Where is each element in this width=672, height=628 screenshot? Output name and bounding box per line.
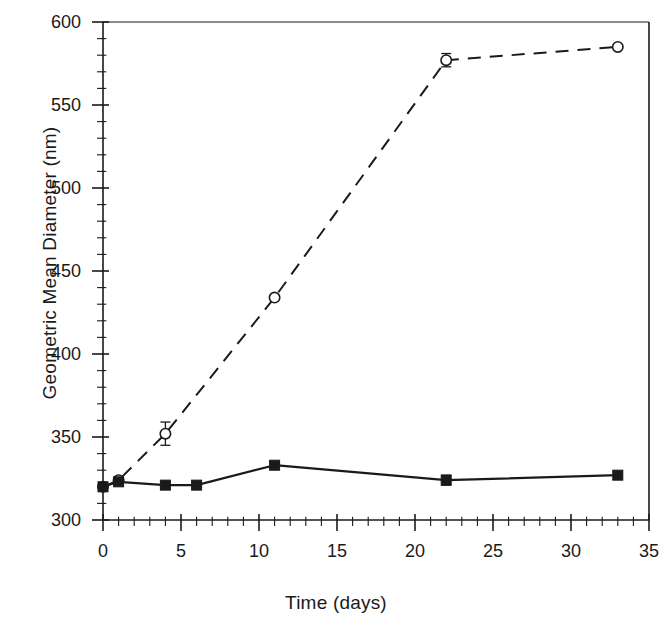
x-tick-label: 25 <box>483 541 503 561</box>
data-point-filled-square <box>441 475 451 485</box>
series-line-open-circle-dashed <box>103 47 618 487</box>
x-tick-label: 30 <box>561 541 581 561</box>
x-tick-label: 5 <box>176 541 186 561</box>
data-point-filled-square <box>160 480 170 490</box>
data-point-open-circle <box>269 292 279 302</box>
data-point-filled-square <box>98 482 108 492</box>
data-point-filled-square <box>270 460 280 470</box>
x-tick-label: 20 <box>405 541 425 561</box>
y-tick-label: 300 <box>51 510 81 530</box>
data-point-open-circle <box>160 428 170 438</box>
x-tick-label: 10 <box>249 541 269 561</box>
x-tick-label: 0 <box>98 541 108 561</box>
x-axis-label: Time (days) <box>0 592 672 614</box>
data-point-filled-square <box>613 470 623 480</box>
series-line-filled-square-solid <box>103 465 618 487</box>
y-tick-label: 600 <box>51 12 81 32</box>
y-axis-label-wrap: Geometric Mean Diameter (nm) <box>0 0 1 1</box>
data-point-filled-square <box>114 477 124 487</box>
data-point-filled-square <box>192 480 202 490</box>
data-point-open-circle <box>441 55 451 65</box>
figure-root: 30035040045050055060005101520253035 Geom… <box>0 0 672 628</box>
chart-canvas: 30035040045050055060005101520253035 <box>0 0 672 628</box>
x-tick-label: 15 <box>327 541 347 561</box>
x-tick-label: 35 <box>639 541 659 561</box>
data-point-open-circle <box>613 42 623 52</box>
y-axis-label: Geometric Mean Diameter (nm) <box>39 73 61 453</box>
